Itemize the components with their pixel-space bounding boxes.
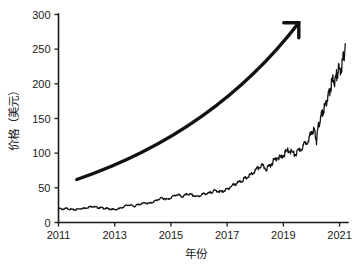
price-line-chart: 050100150200250300 201120132015201720192…	[0, 0, 360, 270]
y-tick-label: 150	[32, 113, 50, 125]
y-tick-label: 250	[32, 43, 50, 55]
y-axis-title: 价格（美元）	[7, 85, 20, 151]
x-tick-label: 2021	[327, 229, 351, 241]
y-tick-label: 50	[38, 182, 50, 194]
x-tick-label: 2015	[159, 229, 183, 241]
y-tick-label: 0	[44, 217, 50, 229]
x-tick-label: 2019	[271, 229, 295, 241]
x-tick-label: 2013	[102, 229, 126, 241]
x-tick-label: 2011	[47, 229, 71, 241]
y-tick-label: 100	[32, 147, 50, 159]
x-axis-title: 年份	[185, 247, 208, 260]
y-tick-label: 300	[32, 9, 50, 21]
chart-figure: 050100150200250300 201120132015201720192…	[0, 0, 360, 270]
y-tick-label: 200	[32, 78, 50, 90]
x-tick-label: 2017	[215, 229, 239, 241]
